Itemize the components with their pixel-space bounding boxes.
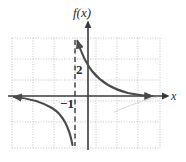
y-axis-label: f(x): [73, 6, 91, 19]
function-graph-figure: f(x) x 2 −1: [0, 0, 186, 162]
grid-lines: [12, 38, 160, 148]
plot-canvas: [0, 0, 186, 162]
y-intercept-label: 2: [76, 63, 83, 76]
vertical-asymptote-label: −1: [60, 97, 74, 110]
faint-artifact-line: [114, 97, 158, 112]
x-axis-label: x: [171, 90, 176, 102]
